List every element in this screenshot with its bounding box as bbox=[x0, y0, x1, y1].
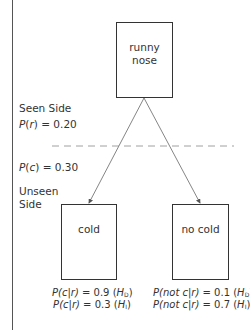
prob-cold-hi: P(c|r) = 0.3 (HI) bbox=[52, 299, 132, 313]
prior-c-label: P(c) = 0.30 bbox=[19, 161, 78, 174]
edge-to-cold bbox=[89, 98, 144, 203]
node-label: nose bbox=[117, 54, 172, 67]
node-label: runny bbox=[117, 41, 172, 54]
node-no-cold: no cold bbox=[172, 204, 229, 280]
node-cold: cold bbox=[61, 204, 117, 280]
node-label: cold bbox=[62, 223, 116, 236]
seen-side-label: Seen Side bbox=[19, 102, 71, 115]
node-runny-nose: runny nose bbox=[116, 22, 173, 98]
prob-no-cold-hi: P(not c|r) = 0.7 (HI) bbox=[153, 299, 250, 313]
prior-r-label: P(r) = 0.20 bbox=[19, 118, 77, 131]
node-label: no cold bbox=[173, 223, 228, 236]
edge-to-no-cold bbox=[144, 98, 200, 203]
unseen-side-label: Unseen Side bbox=[19, 185, 58, 211]
